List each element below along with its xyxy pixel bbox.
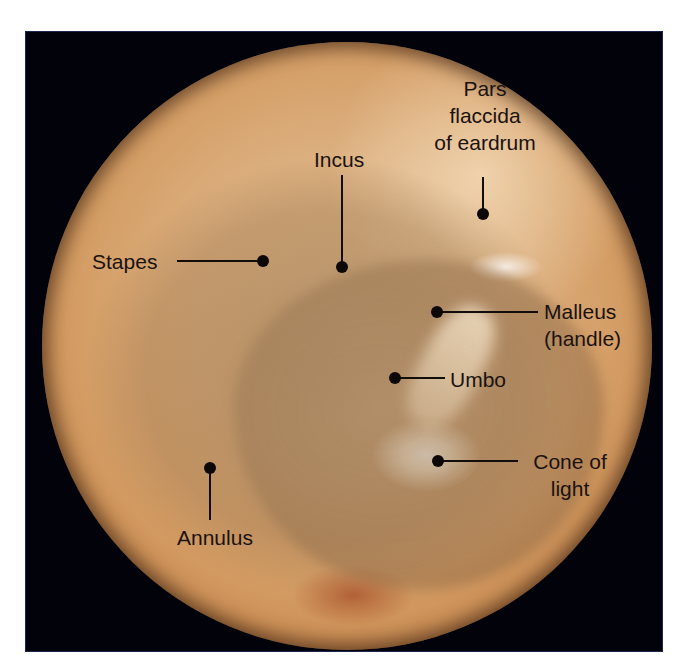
label-stapes: Stapes [92,248,157,275]
leader-line-incus [341,175,343,267]
marker-umbo [389,372,401,384]
label-cone-of-light: Cone of light [520,448,620,502]
leader-line-malleus [437,311,538,313]
label-pars-flaccida: Pars flaccida of eardrum [425,75,545,156]
label-malleus-handle: Malleus (handle) [544,298,621,352]
label-umbo: Umbo [450,366,506,393]
label-incus: Incus [314,146,364,173]
leader-line-annulus [209,468,211,520]
marker-malleus [431,306,443,318]
label-annulus: Annulus [177,524,253,551]
leader-line-stapes [177,260,263,262]
leader-line-cone-of-light [438,460,518,462]
marker-stapes [257,255,269,267]
marker-cone-of-light [432,455,444,467]
marker-annulus [204,462,216,474]
marker-incus [336,261,348,273]
marker-pars-flaccida [477,208,489,220]
leader-line-umbo [395,377,445,379]
